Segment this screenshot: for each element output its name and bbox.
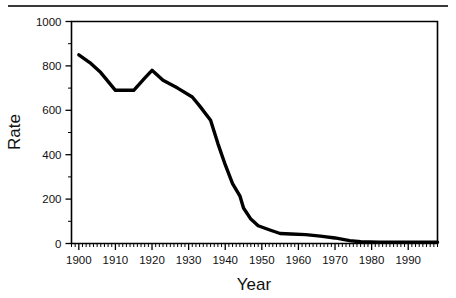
x-tick-label: 1950 xyxy=(249,254,275,266)
line-chart-plot: 02004006008001000 1900191019201930194019… xyxy=(0,0,456,298)
y-tick-label: 600 xyxy=(42,104,61,116)
x-axis-tick-labels: 1900191019201930194019501960197019801990 xyxy=(66,254,421,266)
x-tick-label: 1980 xyxy=(359,254,385,266)
x-axis-title: Year xyxy=(237,275,272,294)
x-tick-label: 1960 xyxy=(286,254,312,266)
x-tick-label: 1990 xyxy=(395,254,421,266)
y-axis-tick-labels: 02004006008001000 xyxy=(36,16,62,250)
y-tick-label: 0 xyxy=(55,238,61,250)
x-axis-ticks xyxy=(72,244,438,251)
data-series-rate xyxy=(79,55,438,242)
plot-frame xyxy=(72,22,438,244)
x-tick-label: 1910 xyxy=(103,254,129,266)
y-tick-label: 1000 xyxy=(36,16,62,28)
y-axis-ticks xyxy=(66,22,72,244)
x-tick-label: 1930 xyxy=(176,254,202,266)
y-tick-label: 200 xyxy=(42,193,61,205)
y-axis-title: Rate xyxy=(5,114,24,150)
y-tick-label: 800 xyxy=(42,60,61,72)
x-tick-label: 1970 xyxy=(322,254,348,266)
x-tick-label: 1900 xyxy=(66,254,92,266)
chart-figure: 02004006008001000 1900191019201930194019… xyxy=(0,0,456,298)
x-tick-label: 1940 xyxy=(212,254,238,266)
x-tick-label: 1920 xyxy=(139,254,165,266)
y-tick-label: 400 xyxy=(42,149,61,161)
